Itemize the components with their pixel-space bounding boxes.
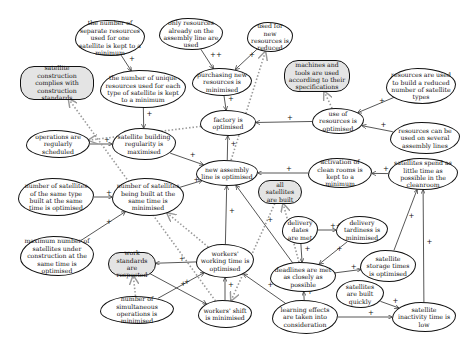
influence-node: satellites are built quickly [336,280,384,308]
node-label: delivery tardiness is minimised [340,219,384,241]
edge-sign-label: + [379,97,385,105]
node-label: number of satellites being built at the … [116,182,180,212]
node-label: work standards are respected [112,249,152,279]
influence-node: use of resources is optimised [312,108,364,134]
edge-sign-label: + [393,297,399,305]
influence-edge [256,121,312,122]
influence-node: maximum number of satellites under const… [20,236,94,276]
goal-node: all satellites are built [258,180,302,204]
edge-sign-label: + [287,114,293,122]
influence-node: number of satellites being built at the … [112,178,184,216]
influence-node: only resources already on the assembly l… [159,18,223,50]
goal-node: satellite construction complies with con… [20,66,94,100]
influence-node: used for new resources is reduced [247,22,293,52]
node-label: only resources already on the assembly l… [163,19,219,49]
node-label: workers' working time is optimised [200,250,250,272]
influence-edge [81,212,126,241]
dashed-edge [133,276,135,296]
node-label: workers' shift is minimised [202,307,248,322]
node-label: satellite inactivity time is low [396,306,452,328]
edge-sign-label: + [180,280,186,288]
node-label: use of resources is optimised [316,110,360,132]
influence-edge [335,270,361,273]
edge-sign-label: + [106,218,112,226]
diagram-canvas: ++++++++++++++++++++++++++++++++++ the n… [0,0,476,346]
edge-sign-label: + [229,207,235,215]
node-label: learning effects are taken into consider… [276,306,334,328]
edge-sign-label: + [147,110,153,118]
influence-node: satellite inactivity time is low [392,302,456,332]
edge-sign-label: + [286,165,292,173]
node-label: factory is optimised [204,116,252,131]
goal-node: machines and tools are used according to… [284,60,350,92]
edge-sign-label: ++ [210,51,222,59]
influence-edge [224,96,226,110]
influence-node: activation of clean rooms is kept to a m… [308,158,372,188]
edge-sign-label: + [228,281,234,289]
influence-node: delivery tardiness is minimised [336,216,388,244]
influence-node: purchasing new resources is minimised [192,68,252,96]
node-label: machines and tools are used according to… [288,61,346,91]
node-label: the number of separate resources used fo… [79,19,141,56]
node-label: satellite construction complies with con… [24,64,90,101]
influence-node: satellites spend as little time as possi… [388,158,458,190]
node-label: satellite building regularity is maximis… [116,133,172,155]
edge-sign-label: + [427,238,433,246]
influence-node: deadlines are met as closely as possible [270,262,336,292]
node-label: operations are regularly scheduled [30,133,86,155]
edge-sign-label: + [351,263,357,271]
edge-sign-label: + [190,151,196,159]
node-label: resources are used to build a reduced nu… [390,71,452,101]
edge-sign-label: + [106,189,112,197]
influence-node: delivery dates are met [282,216,318,244]
node-label: activation of clean rooms is kept to a m… [312,158,368,188]
influence-edge [156,262,196,263]
influence-node: resources are used to build a reduced nu… [386,68,456,104]
node-label: deadlines are met as closely as possible [274,266,332,288]
node-label: maximum number of satellites under const… [24,237,90,274]
influence-node: operations are regularly scheduled [26,130,90,158]
influence-node: the number of unique resources used for … [100,70,186,108]
edge-sign-label: + [368,309,374,317]
influence-edge [423,190,424,302]
node-label: all satellites are built [262,181,298,203]
node-label: used for new resources is reduced [251,22,289,52]
dashed-edge [167,213,208,247]
node-label: satellites spend as little time as possi… [392,159,454,189]
node-label: number of satellites of the same type bu… [22,182,90,212]
edge-sign-label: + [304,245,310,253]
node-label: the number of unique resources used for … [104,74,182,104]
node-label: satellites are built quickly [340,283,380,305]
node-label: delivery dates are met [286,219,314,241]
edge-sign-label: + [336,245,342,253]
influence-edge [319,242,347,264]
influence-edge [170,153,203,165]
edge-sign-label: + [381,121,387,129]
influence-node: number of satellites of the same type bu… [18,178,94,216]
node-label: resources can be used on several assembl… [394,127,456,149]
edge-sign-label: + [228,95,234,103]
edge-sign-label: + [408,212,414,220]
influence-node: the number of separate resources used fo… [75,20,145,56]
node-label: new assembly line is optimised [200,166,254,181]
influence-edge [225,186,226,244]
influence-edge [301,244,302,262]
dashed-edge [324,92,332,109]
edge-sign-label: + [249,51,255,59]
influence-edge [362,126,393,132]
goal-node: work standards are respected [108,252,156,276]
node-label: number of simultaneous operations is min… [104,295,170,325]
influence-edge [358,97,394,112]
influence-node: number of simultaneous operations is min… [100,296,174,324]
node-label: satellite storage times is optimised [364,255,412,277]
node-label: purchasing new resources is minimised [196,71,248,93]
